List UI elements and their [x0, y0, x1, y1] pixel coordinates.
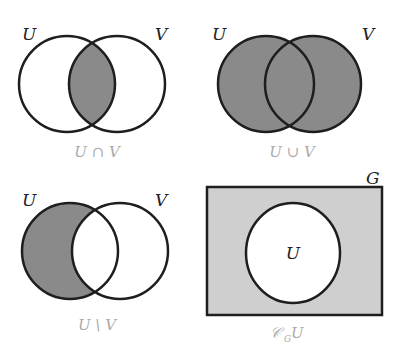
union-caption: U ∪ V — [269, 143, 317, 161]
complement-symbol: 𝒞 — [270, 324, 285, 342]
difference-caption: U \ V — [78, 316, 118, 334]
set-v-label: V — [362, 24, 376, 44]
complement-panel: G U 𝒞 G U — [207, 168, 382, 344]
union-panel: U V U ∪ V — [212, 24, 376, 161]
difference-panel: U V U \ V — [22, 190, 169, 334]
complement-set: U — [291, 324, 305, 342]
set-u-label: U — [212, 24, 227, 44]
set-u-label: U — [22, 190, 37, 210]
set-operations-diagram: U V U ∩ V U V U ∪ V U V U \ V G U 𝒞 G U — [0, 0, 403, 356]
complement-caption: 𝒞 G U — [270, 324, 305, 344]
set-u-label: U — [22, 24, 37, 44]
set-v-label: V — [155, 190, 169, 210]
set-u-label: U — [286, 243, 301, 263]
set-v-label: V — [155, 24, 169, 44]
intersection-caption: U ∩ V — [74, 143, 122, 161]
intersection-panel: U V U ∩ V — [19, 24, 169, 161]
universe-label: G — [366, 168, 380, 188]
